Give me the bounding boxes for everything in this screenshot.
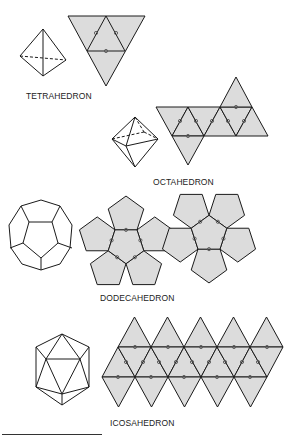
icosa-face xyxy=(118,317,151,347)
icosa-face xyxy=(234,377,267,407)
edge xyxy=(62,334,80,359)
dodeca-front-face xyxy=(23,222,58,258)
icosa-face xyxy=(184,317,217,347)
edge xyxy=(62,387,89,394)
hidden-edge xyxy=(144,132,158,139)
footnote-rule xyxy=(2,434,102,435)
edge xyxy=(135,117,158,139)
tetrahedron-label: TETRAHEDRON xyxy=(26,91,92,101)
tetrahedron-solid xyxy=(20,29,66,76)
edge xyxy=(112,139,126,146)
dodeca-face xyxy=(191,249,227,283)
edge xyxy=(46,359,62,394)
icosa-face xyxy=(151,317,184,347)
octahedron-solid xyxy=(112,117,158,167)
octa-face xyxy=(220,77,252,107)
polyhedra-nets-diagram xyxy=(0,0,289,436)
edge xyxy=(52,206,60,222)
edge xyxy=(80,347,89,359)
edge xyxy=(21,206,29,222)
edge xyxy=(36,387,62,394)
tetrahedron-net xyxy=(68,16,145,86)
dodecahedron-solid xyxy=(9,200,72,270)
octahedron-label: OCTAHEDRON xyxy=(153,177,214,187)
dodecahedron-net xyxy=(79,194,255,284)
dodeca-net-half-2 xyxy=(162,194,255,283)
icosahedron-label: ICOSAHEDRON xyxy=(110,418,174,428)
edge xyxy=(80,359,89,387)
edge xyxy=(62,387,89,405)
edge xyxy=(62,334,89,347)
edge xyxy=(112,139,135,167)
octa-face xyxy=(172,136,204,165)
icosa-face xyxy=(217,317,250,347)
icosa-face xyxy=(250,317,283,347)
icosa-face xyxy=(135,377,168,407)
edge xyxy=(43,60,66,76)
dodecahedron-label: DODECAHEDRON xyxy=(100,293,174,303)
edge xyxy=(36,387,62,405)
icosa-face xyxy=(168,377,201,407)
edge xyxy=(43,29,66,60)
dodeca-face xyxy=(108,196,144,230)
edge xyxy=(62,359,80,394)
icosahedron-solid xyxy=(36,334,89,405)
icosahedron-net xyxy=(102,317,283,407)
dodeca-net-half-1 xyxy=(79,196,172,285)
icosa-face xyxy=(201,377,234,407)
edge xyxy=(10,243,23,248)
icosa-face xyxy=(102,377,135,407)
octahedron-net xyxy=(156,77,268,165)
edge xyxy=(20,56,43,76)
edge xyxy=(36,347,46,359)
edge xyxy=(36,359,46,387)
edge xyxy=(126,146,135,167)
edge xyxy=(20,29,43,56)
